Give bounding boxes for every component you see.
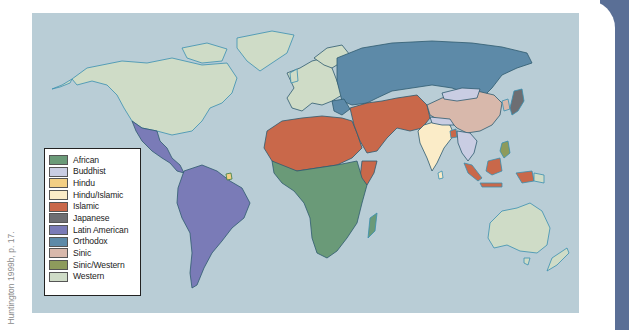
png <box>534 173 544 183</box>
legend-item-islamic: Islamic <box>49 201 140 213</box>
southeast-asia <box>457 131 477 161</box>
philippines <box>500 141 510 158</box>
bangladesh <box>450 129 457 138</box>
legend-item-buddhist: Buddhist <box>49 166 140 178</box>
legend-label: Hindu/Islamic <box>73 191 123 200</box>
legend-label: Western <box>73 272 104 281</box>
new-zealand <box>547 248 569 271</box>
legend-swatch <box>49 178 68 188</box>
legend-swatch <box>49 202 68 212</box>
legend-swatch <box>49 272 68 282</box>
legend-label: Sinic/Western <box>73 261 125 270</box>
legend-swatch <box>49 260 68 270</box>
tasmania <box>524 258 530 265</box>
legend-swatch <box>49 155 68 165</box>
legend-swatch <box>49 213 68 223</box>
legend-label: Islamic <box>73 202 99 211</box>
legend-item-hindu-islamic: Hindu/Islamic <box>49 189 140 201</box>
borneo <box>486 158 502 175</box>
madagascar <box>368 213 377 238</box>
north-america <box>72 58 237 135</box>
map-legend: African Buddhist Hindu Hindu/Islamic Isl… <box>44 148 141 296</box>
legend-label: Hindu <box>73 179 95 188</box>
sri-lanka <box>438 171 443 179</box>
greenland <box>237 31 294 71</box>
figure-credit: Huntington 1999b, p. 17. <box>4 230 18 325</box>
legend-item-latin-american: Latin American <box>49 224 140 236</box>
legend-item-hindu: Hindu <box>49 177 140 189</box>
java <box>480 183 502 187</box>
legend-label: Orthodox <box>73 237 108 246</box>
legend-label: Sinic <box>73 249 91 258</box>
legend-item-japanese: Japanese <box>49 212 140 224</box>
legend-swatch <box>49 237 68 247</box>
korea <box>502 99 510 111</box>
india <box>418 121 454 171</box>
south-america <box>177 165 250 288</box>
legend-swatch <box>49 225 68 235</box>
legend-item-western: Western <box>49 271 140 283</box>
new-guinea <box>516 171 534 183</box>
legend-swatch <box>49 248 68 258</box>
australia <box>488 203 550 253</box>
legend-label: Buddhist <box>73 167 106 176</box>
legend-item-sinic-western: Sinic/Western <box>49 259 140 271</box>
guiana <box>226 173 232 180</box>
japan <box>510 89 524 115</box>
legend-label: Latin American <box>73 226 128 235</box>
legend-label: African <box>73 156 99 165</box>
legend-swatch <box>49 167 68 177</box>
legend-label: Japanese <box>73 214 109 223</box>
russia <box>337 41 532 105</box>
credit-text: Huntington 1999b, p. 17. <box>6 231 16 324</box>
legend-item-sinic: Sinic <box>49 248 140 260</box>
world-civilizations-map: African Buddhist Hindu Hindu/Islamic Isl… <box>32 13 579 313</box>
arctic-islands <box>182 43 227 63</box>
legend-item-african: African <box>49 154 140 166</box>
sumatra <box>464 163 482 181</box>
legend-swatch <box>49 190 68 200</box>
aleutians <box>52 79 72 89</box>
legend-item-orthodox: Orthodox <box>49 236 140 248</box>
sub-saharan-africa <box>272 161 367 258</box>
